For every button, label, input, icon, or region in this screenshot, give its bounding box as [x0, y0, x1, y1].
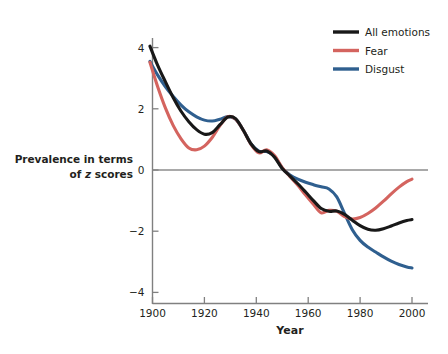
- y-tick-label: 4: [138, 42, 145, 54]
- legend-label: Disgust: [365, 63, 404, 75]
- y-tick-label: −4: [129, 286, 145, 298]
- y-axis-label-suffix: scores: [91, 168, 133, 180]
- x-tick-label: 1980: [347, 307, 374, 319]
- y-axis-label-line1: Prevalence in terms: [15, 153, 133, 165]
- legend-label: All emotions: [365, 26, 430, 38]
- chart-figure: 420−2−4 190019201940196019802000 Prevale…: [0, 0, 448, 354]
- y-tick-label: −2: [129, 225, 144, 237]
- y-tick-label: 0: [138, 164, 145, 176]
- chart-legend: All emotionsFearDisgust: [333, 26, 430, 75]
- x-tick-label: 1920: [191, 307, 218, 319]
- x-tick-label: 1960: [295, 307, 322, 319]
- x-tick-label: 2000: [399, 307, 426, 319]
- y-tick-label: 2: [138, 103, 145, 115]
- y-axis-label-prefix: of: [70, 168, 85, 180]
- line-chart: 420−2−4 190019201940196019802000 Prevale…: [0, 0, 448, 354]
- x-axis-title: Year: [275, 324, 304, 337]
- x-axis-ticks: 190019201940196019802000: [139, 297, 425, 319]
- series-group: [150, 46, 412, 268]
- x-tick-label: 1940: [243, 307, 270, 319]
- x-tick-label: 1900: [139, 307, 166, 319]
- legend-label: Fear: [365, 45, 388, 57]
- series-line-fear: [150, 62, 412, 219]
- y-axis-label-line2: of z scores: [70, 168, 133, 180]
